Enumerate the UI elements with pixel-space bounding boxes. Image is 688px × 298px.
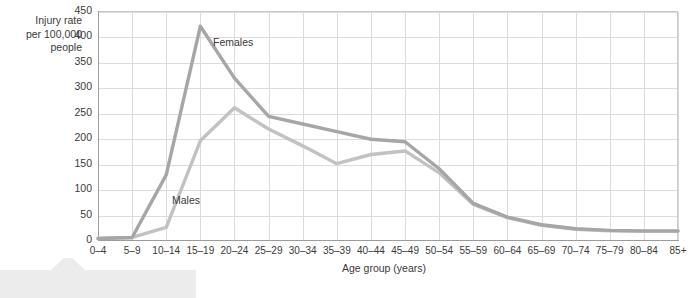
x-tick-label: 20–24 xyxy=(221,245,249,256)
gridline-vertical xyxy=(576,12,577,240)
gridline-vertical xyxy=(610,12,611,240)
x-tick-label: 45–49 xyxy=(391,245,419,256)
x-axis-line xyxy=(98,240,679,241)
x-tick-label: 0–4 xyxy=(90,245,107,256)
x-tick-label: 75–79 xyxy=(596,245,624,256)
gridline-vertical xyxy=(473,12,474,240)
gridline-vertical xyxy=(439,12,440,240)
gridline-vertical xyxy=(337,12,338,240)
y-axis-title-line-3: people xyxy=(4,41,82,55)
x-tick-label: 25–29 xyxy=(255,245,283,256)
decorative-callout-shape xyxy=(0,258,196,298)
gridline-vertical xyxy=(542,12,543,240)
gridline-vertical xyxy=(405,12,406,240)
y-tick-label: 0 xyxy=(52,233,92,245)
series-label-females: Females xyxy=(213,36,253,48)
y-tick-label: 250 xyxy=(52,106,92,118)
x-tick-label: 10–14 xyxy=(152,245,180,256)
y-tick-label: 450 xyxy=(52,4,92,16)
x-tick-label: 5–9 xyxy=(124,245,141,256)
gridline-vertical xyxy=(269,12,270,240)
gridline-horizontal xyxy=(98,37,677,38)
x-tick-label: 70–74 xyxy=(562,245,590,256)
gridline-vertical xyxy=(678,12,679,240)
x-tick-label: 40–44 xyxy=(357,245,385,256)
gridline-horizontal xyxy=(98,63,677,64)
y-tick-label: 300 xyxy=(52,80,92,92)
y-tick-label: 50 xyxy=(52,208,92,220)
gridline-vertical xyxy=(166,12,167,240)
x-tick-label: 30–34 xyxy=(289,245,317,256)
x-tick-label: 55–59 xyxy=(459,245,487,256)
gridline-horizontal xyxy=(98,88,677,89)
x-tick-label: 50–54 xyxy=(425,245,453,256)
x-tick-label: 65–69 xyxy=(528,245,556,256)
y-tick-label: 400 xyxy=(52,29,92,41)
gridline-vertical xyxy=(644,12,645,240)
gridline-horizontal xyxy=(98,139,677,140)
gridline-vertical xyxy=(507,12,508,240)
series-label-males: Males xyxy=(172,194,200,206)
gridline-vertical xyxy=(371,12,372,240)
x-tick-label: 35–39 xyxy=(323,245,351,256)
gridline-horizontal xyxy=(98,114,677,115)
x-axis-title-text: Age group (years) xyxy=(342,262,426,274)
y-tick-label: 200 xyxy=(52,131,92,143)
x-tick-label: 15–19 xyxy=(186,245,214,256)
gridline-horizontal xyxy=(98,216,677,217)
y-tick-label: 100 xyxy=(52,182,92,194)
x-tick-label: 60–64 xyxy=(494,245,522,256)
gridline-vertical xyxy=(132,12,133,240)
gridline-vertical xyxy=(200,12,201,240)
y-axis-line xyxy=(98,11,99,241)
gridline-horizontal xyxy=(98,165,677,166)
gridline-horizontal xyxy=(98,12,677,13)
y-axis-title-line-1: Injury rate xyxy=(4,14,82,28)
gridline-horizontal xyxy=(98,190,677,191)
y-tick-label: 350 xyxy=(52,55,92,67)
y-tick-label: 150 xyxy=(52,157,92,169)
x-tick-label: 80–84 xyxy=(630,245,658,256)
x-tick-label: 85+ xyxy=(670,245,687,256)
gridline-vertical xyxy=(303,12,304,240)
